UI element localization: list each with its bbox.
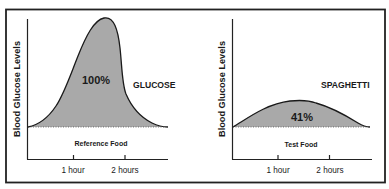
glycemic-index-figure: Blood Glucose Levels 100% GLUCOSE Refere… xyxy=(0,0,389,189)
left-tick-label-2h: 2 hours xyxy=(111,166,138,175)
left-chart: Blood Glucose Levels 100% GLUCOSE Refere… xyxy=(12,18,176,175)
right-y-axis-label: Blood Glucose Levels xyxy=(217,41,227,137)
left-area-percent: 100% xyxy=(82,74,110,86)
right-chart: Blood Glucose Levels 41% SPAGHETTI Test … xyxy=(217,19,372,175)
right-tick-label-1h: 1 hour xyxy=(266,166,289,175)
glucose-area xyxy=(28,18,168,127)
right-food-label: Test Food xyxy=(285,141,318,148)
left-tick-label-1h: 1 hour xyxy=(61,166,84,175)
right-curve-label: SPAGHETTI xyxy=(321,80,370,90)
left-y-axis-label: Blood Glucose Levels xyxy=(12,41,22,137)
left-curve-label: GLUCOSE xyxy=(133,80,176,90)
left-food-label: Reference Food xyxy=(75,140,128,147)
right-tick-label-2h: 2 hours xyxy=(316,166,343,175)
right-area-percent: 41% xyxy=(291,111,313,123)
